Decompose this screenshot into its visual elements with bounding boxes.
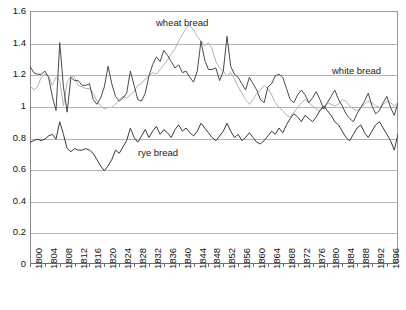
x-tick-mark [327,264,328,267]
x-tick-mark [223,264,224,267]
x-tick-mark [104,264,105,267]
x-tick-mark [119,264,120,267]
x-tick-mark [357,264,358,267]
x-tick-mark [89,264,90,267]
x-tick-mark [268,264,269,267]
series-line-white-bread [30,36,398,121]
x-tick-mark [179,264,180,267]
x-tick-mark [208,264,209,267]
x-tick-mark [164,264,165,267]
x-tick-mark [30,264,31,267]
x-tick-mark [372,264,373,267]
x-tick-mark [60,264,61,267]
x-tick-mark [387,264,388,267]
x-tick-mark [342,264,343,267]
x-tick-mark [134,264,135,267]
x-tick-mark [75,264,76,267]
x-tick-mark [194,264,195,267]
x-tick-mark [298,264,299,267]
x-tick-mark [253,264,254,267]
series-line-rye-bread [30,106,398,171]
bread-price-chart: 1.61.41.210.80.60.40.20 1800180418081812… [0,0,406,310]
x-tick-mark [283,264,284,267]
x-tick-mark [149,264,150,267]
x-tick-mark [313,264,314,267]
series-label-wheat-bread: wheat bread [156,18,208,28]
series-label-rye-bread: rye bread [138,148,178,158]
series-label-white-bread: white bread [332,66,381,76]
x-tick-mark [45,264,46,267]
x-tick-mark [238,264,239,267]
series-container [30,11,398,264]
